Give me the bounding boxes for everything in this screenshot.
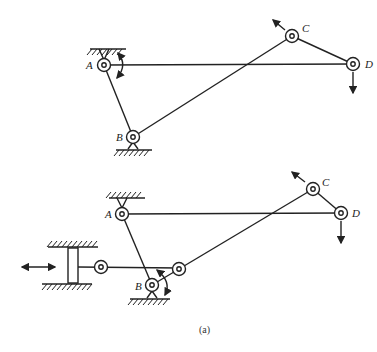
- link-ad: [104, 64, 353, 65]
- link-cd: [292, 36, 353, 64]
- link-c-bottom: [179, 189, 313, 269]
- connecting-rod: [78, 267, 179, 268]
- joint-b-top: [127, 131, 140, 144]
- mechanism-diagram: [0, 0, 377, 352]
- link-ab-bottom: [122, 214, 152, 285]
- label-a-top: A: [86, 60, 93, 71]
- label-a-bottom: A: [105, 209, 112, 220]
- ground-a-bottom: [106, 192, 145, 208]
- top-mechanism: [87, 20, 360, 156]
- label-c-bottom: C: [322, 177, 329, 188]
- ground-b-bottom: [128, 291, 170, 305]
- link-ad-bottom: [122, 213, 341, 214]
- label-b-top: B: [116, 132, 123, 143]
- label-d-top: D: [365, 59, 373, 70]
- arrow-c-icon: [273, 20, 285, 30]
- slider-block: [68, 248, 78, 283]
- bottom-mechanism: [22, 172, 348, 305]
- joint-d-top: [347, 58, 360, 71]
- joint-c-top: [286, 30, 299, 43]
- joint-a-top: [98, 59, 111, 72]
- arrow-c-bottom-icon: [292, 172, 305, 182]
- label-d-bottom: D: [352, 208, 360, 219]
- label-b-bottom: B: [135, 281, 142, 292]
- figure-caption: (a): [199, 324, 210, 335]
- link-bc: [133, 36, 292, 137]
- label-c-top: C: [302, 23, 309, 34]
